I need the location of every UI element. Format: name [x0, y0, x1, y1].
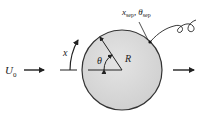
radius-label: R — [124, 53, 131, 64]
angle-label: θ — [97, 55, 102, 66]
arc-coordinate-label: x — [62, 47, 68, 58]
freestream-label: U0 — [5, 64, 17, 79]
diagram-canvas: U0 x θ R xsep,θsep — [0, 0, 207, 118]
separated-streamline — [151, 20, 196, 41]
separation-label: xsep,θsep — [121, 7, 151, 18]
